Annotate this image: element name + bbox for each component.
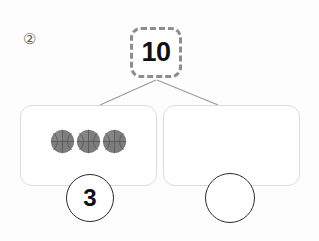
basketball-icon xyxy=(102,129,127,154)
basketball-group-left xyxy=(50,129,127,154)
basketball-icon xyxy=(76,129,101,154)
problem-index: ② xyxy=(17,26,41,50)
answer-value-left: 3 xyxy=(83,186,96,210)
basketball-icon xyxy=(50,129,75,154)
connector-line-right xyxy=(157,80,218,105)
worksheet-canvas: ② 10 xyxy=(0,0,319,241)
total-value: 10 xyxy=(141,39,170,66)
answer-circle-right[interactable] xyxy=(205,173,255,223)
connector-line-left xyxy=(100,80,156,105)
total-box: 10 xyxy=(130,27,182,78)
answer-circle-left[interactable]: 3 xyxy=(66,174,114,222)
